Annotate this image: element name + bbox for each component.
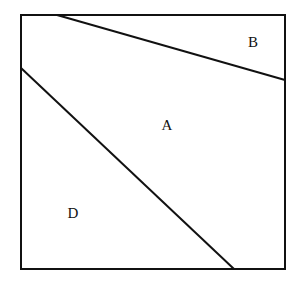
partition-diagram: B A D [0, 0, 294, 287]
diagonal-line [21, 68, 234, 269]
region-label-b: B [248, 34, 258, 50]
region-label-a: A [162, 117, 173, 133]
region-label-d: D [68, 205, 79, 221]
outer-square [21, 15, 285, 269]
